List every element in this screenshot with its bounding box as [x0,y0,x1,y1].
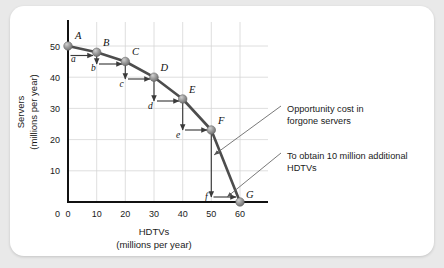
callout-additional-hdtvs-line2: HDTVs [287,163,317,173]
y-axis-subtitle: (millions per year) [28,74,39,150]
x-tick-label: 60 [235,209,245,219]
callout-opportunity-cost: Opportunity cost in forgone servers [287,104,364,126]
step-label-f: f [205,192,209,202]
x-tick-label: 30 [149,209,159,219]
y-tick-label: 0 [55,209,60,219]
x-tick-label: 0 [65,209,70,219]
data-point-labels: A B C D E F G [74,30,254,200]
step-label-d: d [148,101,153,111]
data-point-label-f: F [217,115,225,126]
x-axis-subtitle: (millions per year) [116,239,192,250]
step-labels: a b c d e f [71,54,209,202]
x-axis-ticks: 0 10 20 30 40 50 60 [65,209,245,219]
x-tick-label: 10 [92,209,102,219]
y-tick-label: 10 [50,166,60,176]
y-tick-label: 20 [50,135,60,145]
data-point-marker[interactable] [150,73,159,82]
data-point-marker[interactable] [121,57,130,66]
y-tick-label: 50 [50,42,60,52]
data-point-label-d: D [160,62,169,73]
step-label-a: a [71,54,76,64]
callout-additional-hdtvs-line1: To obtain 10 million additional [287,151,408,161]
y-tick-label: 40 [50,73,60,83]
y-tick-label: 30 [50,104,60,114]
axes [67,20,268,203]
data-point-marker[interactable] [236,198,245,207]
ppf-chart: 50 40 30 20 10 0 0 10 20 30 40 50 60 HDT… [0,0,444,268]
step-label-b: b [91,63,96,73]
x-tick-label: 20 [120,209,130,219]
y-axis-ticks: 50 40 30 20 10 0 [50,42,60,220]
step-label-e: e [176,130,180,140]
data-point-label-b: B [103,37,110,48]
x-tick-label: 40 [178,209,188,219]
leader-line-opportunity-cost [214,106,281,155]
data-point-label-g: G [246,189,254,200]
callout-opportunity-cost-line1: Opportunity cost in [287,104,364,114]
step-label-c: c [120,79,125,89]
leader-line-additional-hdtvs [227,153,281,197]
data-point-label-e: E [188,84,196,95]
callout-opportunity-cost-line2: forgone servers [287,116,351,126]
y-axis-title: Servers [15,95,26,128]
data-point-marker[interactable] [92,48,101,57]
x-tick-label: 50 [206,209,216,219]
callout-additional-hdtvs: To obtain 10 million additional HDTVs [287,151,408,173]
data-point-marker[interactable] [64,42,73,51]
data-point-label-c: C [132,46,140,57]
x-axis-title: HDTVs [139,226,170,237]
data-point-marker[interactable] [178,95,187,104]
data-point-marker[interactable] [207,126,216,135]
data-point-label-a: A [74,30,82,41]
